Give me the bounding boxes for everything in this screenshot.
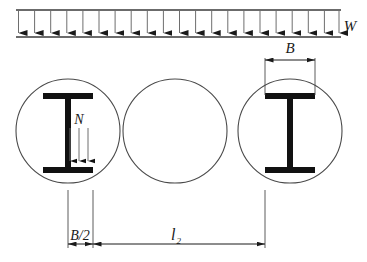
figure-background [0,0,367,262]
load-label-W: W [344,18,358,34]
l2-subscript: 2 [176,236,181,246]
l2-base: l [171,226,176,243]
point-load-label-N: N [73,112,84,127]
dimension-label-B: B [285,40,294,56]
right-beam-bottom-flange [265,167,315,173]
engineering-diagram: W N B B/2 l2 [0,0,367,262]
right-beam-web [287,97,293,172]
dimension-label-B-over-2: B/2 [70,228,89,243]
left-beam-bottom-flange [43,167,93,173]
